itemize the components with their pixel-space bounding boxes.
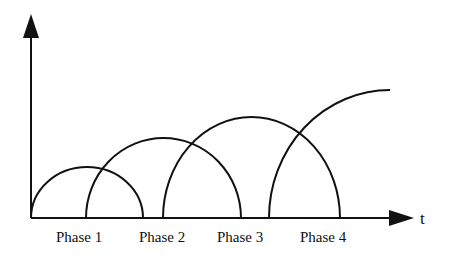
phase-4-arc <box>269 90 390 218</box>
phase-3-label: Phase 3 <box>217 229 263 245</box>
phase-3-arc <box>163 117 340 218</box>
phase-1-label: Phase 1 <box>56 229 102 245</box>
x-axis-arrow-icon <box>389 210 414 226</box>
phase-4-label: Phase 4 <box>300 229 347 245</box>
phase-2-label: Phase 2 <box>139 229 185 245</box>
x-axis-label: t <box>420 209 425 228</box>
phase-diagram: t Phase 1 Phase 2 Phase 3 Phase 4 <box>0 0 449 258</box>
y-axis-arrow-icon <box>23 14 39 38</box>
